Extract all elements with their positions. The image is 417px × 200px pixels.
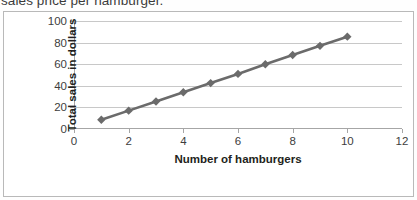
x-axis-tick-label: 4 [180,135,186,147]
x-axis-tick [347,129,348,133]
y-axis-tick-label: 100 [48,15,67,27]
x-axis-tick-label: 8 [289,135,295,147]
x-axis-tick-label: 2 [125,135,131,147]
plot-area: 020406080100 024681012 Number of hamburg… [74,21,402,129]
x-axis-tick [293,129,294,133]
data-point-marker [288,51,296,59]
x-axis-tick [129,129,130,133]
data-point-marker [152,97,160,105]
x-axis-tick-label: 0 [71,135,77,147]
data-point-marker [234,70,242,78]
x-axis-tick [402,129,403,133]
data-point-marker [124,106,132,114]
x-axis-tick-label: 6 [235,135,241,147]
x-axis-tick [183,129,184,133]
data-point-marker [343,32,351,40]
chart-screenshot: sales price per hamburger. 020406080100 … [0,0,417,200]
x-axis-tick-label: 10 [341,135,354,147]
data-point-marker [206,79,214,87]
data-point-marker [261,60,269,68]
data-point-marker [179,88,187,96]
data-point-marker [316,42,324,50]
chart-container: 020406080100 024681012 Number of hamburg… [3,11,414,197]
x-axis-title: Number of hamburgers [74,153,402,165]
y-axis-tick-label: 80 [54,37,67,49]
data-point-marker [97,116,105,124]
y-axis-tick-label: 40 [54,80,67,92]
caption-text: sales price per hamburger. [1,0,163,8]
y-axis-tick-label: 20 [54,101,67,113]
y-axis-tick-label: 60 [54,58,67,70]
y-axis-title: Total sales in dollars [66,19,78,132]
x-axis-tick-label: 12 [396,135,409,147]
x-axis-tick [238,129,239,133]
data-series-line [74,21,402,129]
